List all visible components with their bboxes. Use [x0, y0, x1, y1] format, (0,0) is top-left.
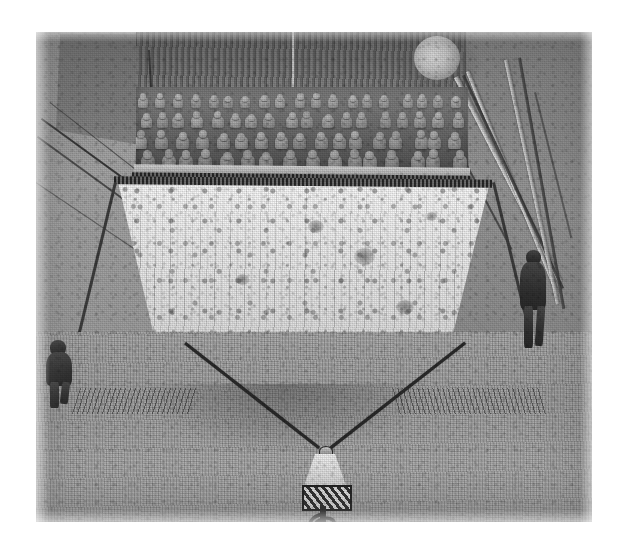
screen-blot	[236, 274, 249, 285]
artwork-canvas: Cinema Interior with Audience Balcony an…	[0, 0, 624, 555]
screen-blot	[426, 212, 437, 221]
floor-hatching-left	[72, 388, 200, 414]
projector-body	[302, 485, 352, 511]
power-cord-icon	[298, 512, 356, 522]
screen-blot	[396, 300, 414, 314]
artwork-plate	[36, 32, 592, 522]
floor-hatching-right	[392, 388, 549, 414]
screen-blot	[308, 220, 324, 233]
screen-blot	[354, 248, 375, 265]
moon-light-icon	[414, 36, 460, 80]
